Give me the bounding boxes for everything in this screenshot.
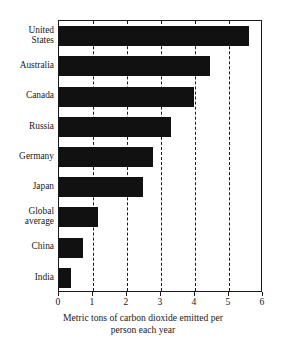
- bar: [59, 87, 194, 107]
- bar-row: [59, 238, 263, 258]
- y-axis-label: China: [0, 241, 54, 251]
- x-tick-label: 3: [150, 296, 170, 308]
- x-tick-label: 2: [116, 296, 136, 308]
- bar-row: [59, 177, 263, 197]
- y-axis-label: Australia: [0, 60, 54, 70]
- y-axis-label: Japan: [0, 181, 54, 191]
- chart-figure: United StatesAustraliaCanadaRussiaGerman…: [0, 0, 286, 356]
- x-tick-label: 0: [48, 296, 68, 308]
- bar-row: [59, 87, 263, 107]
- bar: [59, 207, 98, 227]
- bar-group: [59, 21, 261, 291]
- bar: [59, 268, 71, 288]
- bar: [59, 238, 83, 258]
- bar-row: [59, 56, 263, 76]
- plot-area: [58, 20, 262, 292]
- bar: [59, 177, 143, 197]
- bar-row: [59, 207, 263, 227]
- x-tick-label: 5: [218, 296, 238, 308]
- x-axis-title-line-1: Metric tons of carbon dioxide emitted pe…: [14, 312, 272, 324]
- x-tick-label: 6: [252, 296, 272, 308]
- bar-row: [59, 268, 263, 288]
- y-axis-category-labels: United StatesAustraliaCanadaRussiaGerman…: [0, 20, 54, 292]
- bar: [59, 117, 171, 137]
- bar-row: [59, 117, 263, 137]
- y-axis-label: India: [0, 272, 54, 282]
- y-axis-label: Germany: [0, 151, 54, 161]
- x-axis-ticks: 0123456: [0, 292, 286, 310]
- y-axis-label: Canada: [0, 90, 54, 100]
- y-axis-label: Russia: [0, 121, 54, 131]
- y-axis-label: Global average: [0, 206, 54, 227]
- bar: [59, 56, 210, 76]
- x-axis-title: Metric tons of carbon dioxide emitted pe…: [14, 312, 272, 337]
- x-axis-title-line-2: person each year: [14, 324, 272, 336]
- bar: [59, 147, 153, 167]
- x-tick-label: 1: [82, 296, 102, 308]
- bar-row: [59, 26, 263, 46]
- x-tick-label: 4: [184, 296, 204, 308]
- y-axis-label: United States: [0, 25, 54, 46]
- bar: [59, 26, 249, 46]
- bar-row: [59, 147, 263, 167]
